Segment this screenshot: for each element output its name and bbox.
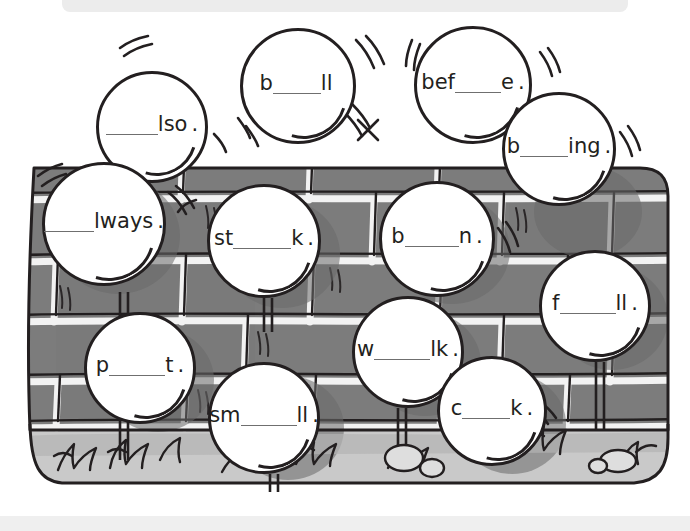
bubble-suffix: ll: [321, 71, 333, 95]
bubble-blank[interactable]: [273, 72, 321, 94]
word-bubble-boiling[interactable]: b ing.: [502, 92, 616, 206]
bubble-suffix: lways: [94, 209, 153, 233]
bubble-blank[interactable]: [106, 113, 158, 135]
word-bubble-small[interactable]: sm ll.: [208, 362, 320, 474]
bubble-blank[interactable]: [233, 227, 291, 249]
bubble-blank[interactable]: [405, 225, 459, 247]
bubble-suffix: lso: [158, 112, 188, 136]
bubble-blank[interactable]: [455, 71, 501, 93]
bubble-punctuation: .: [153, 209, 164, 233]
top-chrome-bar: [62, 0, 628, 12]
bubble-blank[interactable]: [374, 338, 430, 360]
bubble-prefix: p: [96, 353, 109, 377]
bubble-suffix: n: [459, 224, 472, 248]
word-bubble-fall[interactable]: f ll.: [539, 250, 651, 362]
bubble-text: bef e.: [421, 72, 524, 94]
bubble-prefix: b: [507, 134, 520, 158]
bubble-suffix: k: [291, 226, 303, 250]
bubble-prefix: w: [357, 337, 374, 361]
bubble-text: lways.: [44, 211, 164, 233]
bottom-chrome-bar: [0, 516, 690, 531]
bubble-blank[interactable]: [462, 397, 510, 419]
bubble-suffix: ing: [568, 134, 600, 158]
bubble-prefix: st: [214, 226, 233, 250]
bubble-punctuation: .: [303, 226, 314, 250]
bubble-suffix: ll: [297, 403, 309, 427]
bubble-punctuation: .: [472, 224, 483, 248]
bubble-punctuation: [333, 71, 337, 95]
bubble-suffix: k: [510, 396, 522, 420]
bubble-blank[interactable]: [241, 404, 297, 426]
bubble-text: b ing.: [507, 136, 612, 158]
bubble-suffix: e: [501, 70, 514, 94]
bubble-prefix: c: [451, 396, 463, 420]
bubble-prefix: f: [552, 291, 559, 315]
word-bubble-part[interactable]: p t.: [84, 312, 196, 424]
bubble-text: lso.: [106, 114, 198, 136]
bubble-text: p t.: [96, 355, 184, 377]
bubble-punctuation: .: [523, 396, 534, 420]
word-bubble-ball[interactable]: b ll: [240, 28, 356, 144]
word-bubble-chalk[interactable]: c k.: [437, 356, 547, 466]
bubble-text: c k.: [451, 398, 533, 420]
word-bubble-stalk[interactable]: st k.: [207, 184, 321, 298]
bubble-suffix: ll: [616, 291, 628, 315]
bubble-punctuation: .: [601, 134, 612, 158]
bubble-text: b n.: [391, 226, 482, 248]
worksheet-page: lso.b llbef e.b ing. lways.st k.b n.f ll…: [0, 0, 690, 531]
bubble-prefix: bef: [421, 70, 455, 94]
bubble-prefix: sm: [209, 403, 240, 427]
bubble-punctuation: .: [514, 70, 525, 94]
bubble-suffix: lk: [430, 337, 448, 361]
bubble-blank[interactable]: [520, 135, 568, 157]
bubble-prefix: b: [259, 71, 272, 95]
word-bubble-brown[interactable]: b n.: [379, 181, 495, 297]
bubble-text: b ll: [259, 73, 336, 95]
bubble-text: f ll.: [552, 293, 638, 315]
word-bubble-always[interactable]: lways.: [42, 162, 166, 286]
bubble-punctuation: .: [627, 291, 638, 315]
bubble-punctuation: .: [448, 337, 459, 361]
bubble-punctuation: .: [173, 353, 184, 377]
bubble-text: st k.: [214, 228, 314, 250]
bubble-text: w lk.: [357, 339, 459, 361]
bubble-punctuation: .: [308, 403, 319, 427]
bubble-punctuation: .: [187, 112, 198, 136]
bubble-text: sm ll.: [209, 405, 319, 427]
bubble-prefix: b: [391, 224, 404, 248]
bubble-blank[interactable]: [560, 292, 616, 314]
bubble-blank[interactable]: [109, 354, 165, 376]
bubble-blank[interactable]: [44, 210, 94, 232]
